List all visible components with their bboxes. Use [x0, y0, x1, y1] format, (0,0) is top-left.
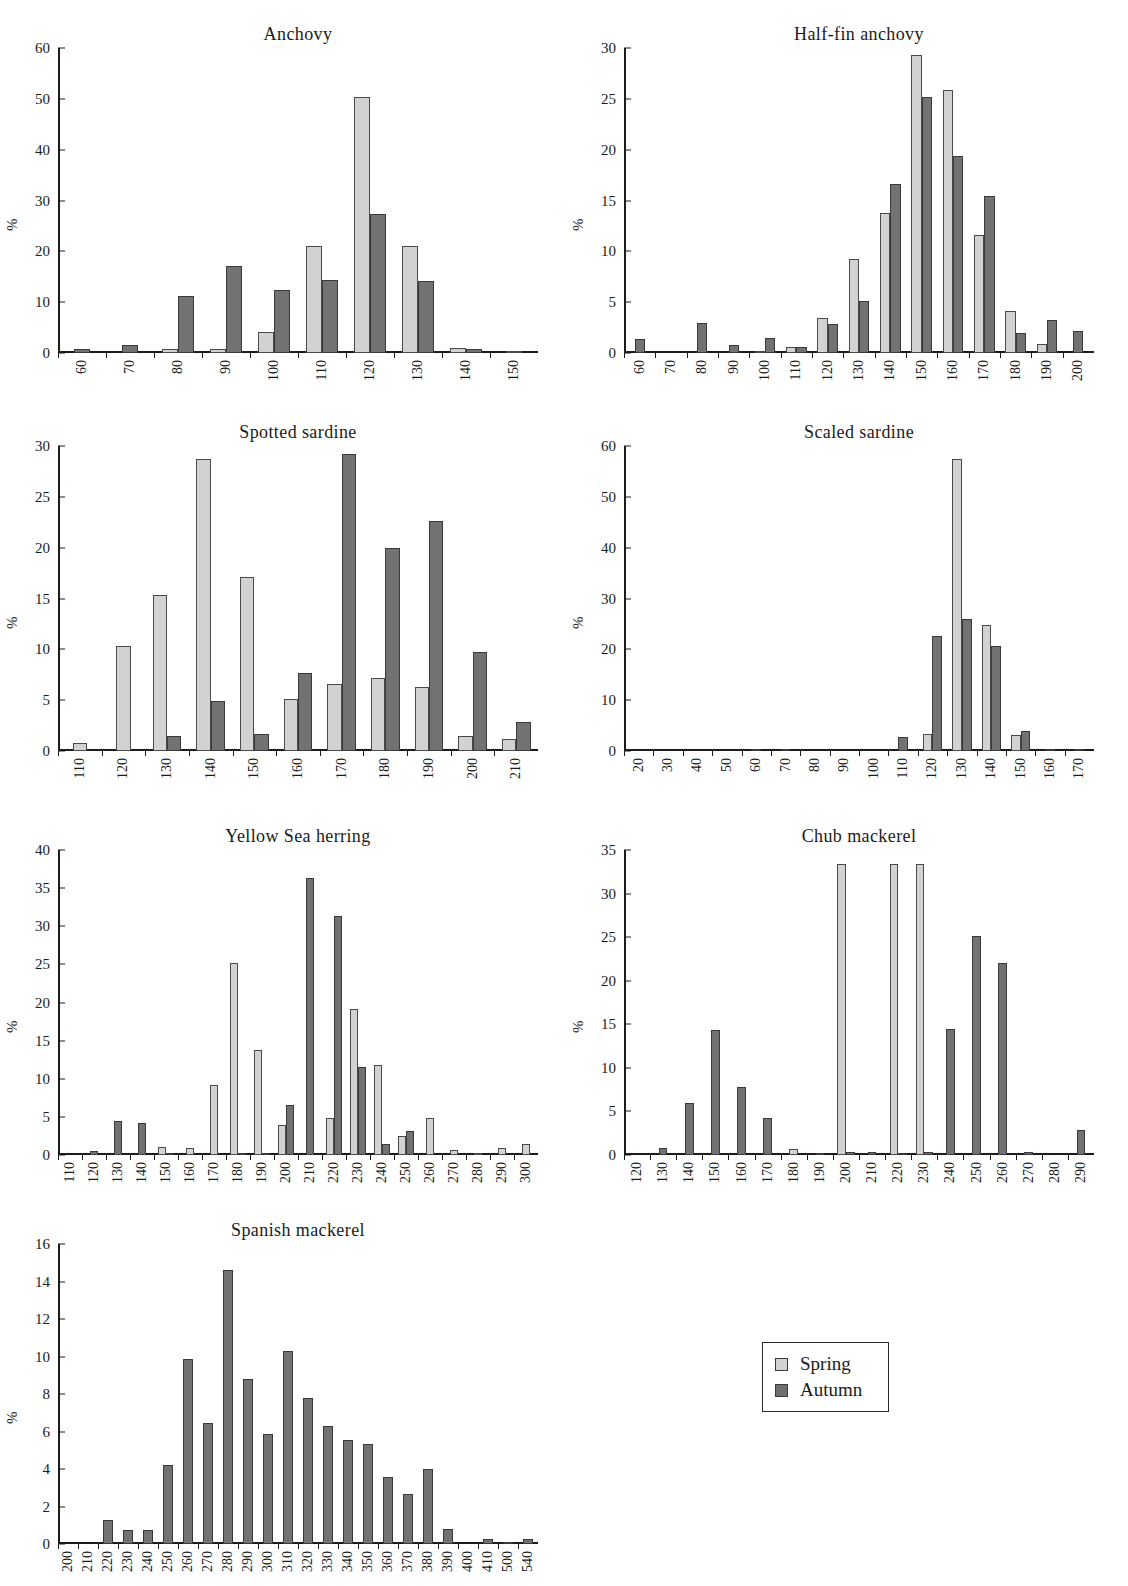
y-tick-label: 60	[35, 41, 50, 56]
x-tick-label: 70	[122, 360, 138, 374]
y-tick-label: 2	[43, 1499, 51, 1514]
x-tick-label: 130	[159, 758, 175, 779]
bar-group	[394, 850, 418, 1155]
bar-autumn	[781, 749, 791, 751]
x-tick-mark	[320, 751, 321, 756]
bar-autumn	[323, 1426, 332, 1544]
x-tick-label: 400	[460, 1551, 476, 1572]
bar-autumn	[429, 521, 443, 751]
y-axis-label: %	[570, 219, 587, 232]
x-tick-label: 250	[969, 1162, 985, 1183]
bar-spring	[1011, 735, 1021, 751]
bar-group	[178, 1244, 198, 1544]
bar-autumn	[1077, 1130, 1086, 1155]
x-tick-mark	[98, 1544, 99, 1549]
x-tick-mark	[494, 751, 495, 756]
x-tick-label: 100	[757, 360, 773, 381]
x-tick-mark	[250, 353, 251, 358]
x-tick-label: 220	[890, 1162, 906, 1183]
y-tick-label: 5	[609, 295, 617, 310]
bar-group	[494, 446, 538, 751]
bar-autumn	[322, 280, 338, 353]
bar-autumn	[90, 1151, 98, 1155]
x-tick-mark	[624, 1155, 625, 1160]
y-tick-label: 0	[609, 744, 617, 759]
bar-autumn	[283, 1351, 292, 1544]
x-tick-label: 280	[220, 1551, 236, 1572]
panel-chub-mackerel: Chub mackerel05101520253035%120130140150…	[566, 824, 1128, 1196]
y-tick-label: 0	[43, 1537, 51, 1552]
plot-area: 0102030405060	[58, 48, 538, 353]
x-tick-label: 230	[120, 1551, 136, 1572]
x-tick-mark	[977, 751, 978, 756]
bar-spring	[371, 678, 385, 751]
x-tick-label: 540	[520, 1551, 536, 1572]
bar-autumn	[123, 1530, 132, 1544]
y-tick-label: 16	[35, 1237, 50, 1252]
x-tick-label: 270	[200, 1551, 216, 1572]
bar-spring	[498, 1148, 506, 1155]
x-tick-mark	[178, 1155, 179, 1160]
bar-group	[963, 850, 989, 1155]
bar-group	[189, 446, 233, 751]
y-tick-label: 40	[601, 540, 616, 555]
x-tick-mark	[418, 1544, 419, 1549]
bar-group	[514, 850, 538, 1155]
bar-autumn	[211, 701, 225, 751]
x-tick-label: 110	[314, 360, 330, 380]
y-tick-label: 0	[609, 1148, 617, 1163]
y-tick-label: 0	[43, 744, 51, 759]
x-tick-mark	[800, 751, 801, 756]
bar-autumn	[828, 324, 838, 353]
bar-autumn	[443, 1529, 452, 1544]
x-tick-mark	[58, 1155, 59, 1160]
x-tick-label: 170	[334, 758, 350, 779]
x-tick-label: 140	[882, 360, 898, 381]
bar-group	[394, 48, 442, 353]
x-tick-mark	[198, 1544, 199, 1549]
x-tick-mark	[1042, 1155, 1043, 1160]
bar-group	[298, 48, 346, 353]
bar-group	[106, 48, 154, 353]
x-tick-mark	[363, 751, 364, 756]
x-tick-mark	[346, 1155, 347, 1160]
x-tick-label: 190	[254, 1162, 270, 1183]
x-tick-mark	[226, 1155, 227, 1160]
bar-group	[947, 446, 976, 751]
bar-autumn	[114, 1121, 122, 1155]
bar-group	[749, 48, 780, 353]
bar-group	[320, 446, 364, 751]
bar-spring	[982, 625, 992, 751]
bar-autumn	[167, 736, 181, 751]
bar-autumn	[298, 673, 312, 751]
y-tick-label: 20	[601, 973, 616, 988]
bar-group	[58, 446, 102, 751]
y-tick-label: 10	[601, 693, 616, 708]
x-tick-mark	[859, 1155, 860, 1160]
bar-autumn	[1073, 331, 1083, 353]
y-tick-label: 5	[609, 1104, 617, 1119]
x-tick-mark	[106, 353, 107, 358]
bar-spring	[943, 90, 953, 353]
bar-group	[238, 1244, 258, 1544]
y-tick-label: 20	[35, 995, 50, 1010]
x-tick-mark	[442, 353, 443, 358]
bar-spring	[849, 259, 859, 353]
chart-title: Yellow Sea herring	[58, 824, 538, 848]
x-tick-label: 120	[362, 360, 378, 381]
x-tick-mark	[318, 1544, 319, 1549]
bar-autumn	[1024, 1152, 1033, 1155]
bar-autumn	[816, 1153, 825, 1155]
x-tick-label: 200	[278, 1162, 294, 1183]
x-tick-label: 200	[465, 758, 481, 779]
bar-autumn	[898, 737, 908, 751]
x-tick-label: 170	[976, 360, 992, 381]
bar-autumn	[138, 1123, 146, 1155]
x-tick-mark	[158, 1544, 159, 1549]
x-tick-label: 70	[663, 360, 679, 374]
bar-group	[218, 1244, 238, 1544]
x-tick-mark	[145, 751, 146, 756]
x-tick-label: 190	[421, 758, 437, 779]
bar-group	[202, 850, 226, 1155]
x-tick-mark	[830, 751, 831, 756]
